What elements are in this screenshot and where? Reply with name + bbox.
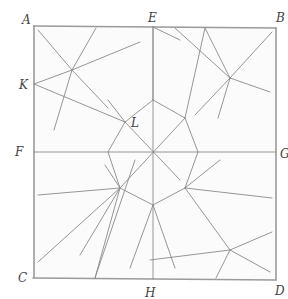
point-label-k: K: [19, 79, 28, 91]
point-label-d: D: [275, 285, 285, 297]
geometry-diagram: [0, 0, 288, 299]
paper-background: [34, 26, 276, 279]
point-label-c: C: [18, 272, 27, 284]
point-label-h: H: [145, 287, 155, 299]
point-label-a: A: [22, 14, 31, 26]
point-label-l: L: [131, 117, 139, 129]
point-label-f: F: [15, 146, 23, 158]
point-label-e: E: [148, 12, 157, 24]
point-label-b: B: [276, 12, 285, 24]
point-label-g: G: [280, 148, 288, 160]
